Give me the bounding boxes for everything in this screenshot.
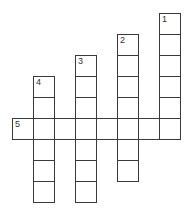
- crossword-cell[interactable]: [117, 76, 139, 98]
- crossword-cell[interactable]: [159, 34, 181, 56]
- clue-number: 4: [36, 78, 41, 87]
- crossword-cell[interactable]: [117, 139, 139, 161]
- crossword-cell[interactable]: [117, 160, 139, 182]
- crossword-cell[interactable]: 3: [75, 55, 97, 77]
- crossword-cell[interactable]: 2: [117, 34, 139, 56]
- crossword-cell[interactable]: [33, 118, 55, 140]
- crossword-cell[interactable]: [33, 139, 55, 161]
- crossword-cell[interactable]: [159, 76, 181, 98]
- clue-number: 2: [120, 36, 125, 45]
- crossword-cell[interactable]: [117, 118, 139, 140]
- clue-number: 5: [15, 120, 20, 129]
- crossword-cell[interactable]: 5: [12, 118, 34, 140]
- crossword-cell[interactable]: [33, 181, 55, 203]
- crossword-cell[interactable]: [33, 97, 55, 119]
- clue-number: 3: [78, 57, 83, 66]
- crossword-cell[interactable]: [159, 97, 181, 119]
- crossword-cell[interactable]: [117, 55, 139, 77]
- crossword-cell[interactable]: 4: [33, 76, 55, 98]
- crossword-cell[interactable]: [75, 181, 97, 203]
- crossword-cell[interactable]: [75, 97, 97, 119]
- crossword-cell[interactable]: [54, 118, 76, 140]
- crossword-cell[interactable]: [96, 118, 118, 140]
- crossword-cell[interactable]: [159, 55, 181, 77]
- crossword-cell[interactable]: 1: [159, 13, 181, 35]
- crossword-cell[interactable]: [33, 160, 55, 182]
- crossword-cell[interactable]: [117, 97, 139, 119]
- clue-number: 1: [162, 15, 167, 24]
- crossword-cell[interactable]: [75, 160, 97, 182]
- crossword-cell[interactable]: [75, 139, 97, 161]
- crossword-cell[interactable]: [75, 76, 97, 98]
- crossword-cell[interactable]: [159, 118, 181, 140]
- crossword-cell[interactable]: [75, 118, 97, 140]
- crossword-grid: 12345: [0, 0, 192, 223]
- crossword-cell[interactable]: [138, 118, 160, 140]
